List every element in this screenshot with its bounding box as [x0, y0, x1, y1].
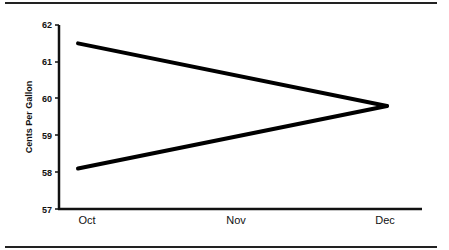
xtick-dec: Dec	[375, 214, 395, 226]
xtick-oct: Oct	[78, 214, 95, 226]
ytick-59: 59	[42, 131, 52, 141]
y-axis-label: Cents Per Gallon	[24, 81, 34, 154]
ytick-57: 57	[42, 205, 52, 215]
xtick-nov: Nov	[226, 214, 246, 226]
ytick-61: 61	[42, 57, 52, 67]
ytick-58: 58	[42, 168, 52, 178]
bottom-border-rule	[5, 246, 437, 248]
y-tick-labels: 62 61 60 59 58 57	[42, 20, 52, 215]
series-upper-line	[78, 43, 387, 106]
x-tick-labels: Oct Nov Dec	[78, 214, 395, 226]
line-chart: 62 61 60 59 58 57 Cents Per Gallon Oct N…	[0, 0, 449, 250]
ytick-62: 62	[42, 20, 52, 30]
series-lower-line	[78, 106, 387, 169]
ytick-60: 60	[42, 94, 52, 104]
